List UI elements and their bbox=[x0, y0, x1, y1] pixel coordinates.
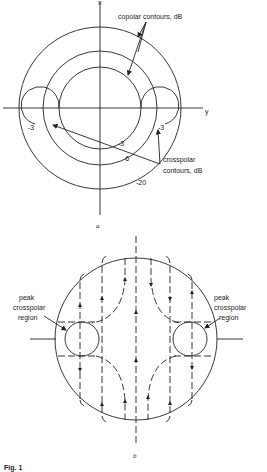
panel-a-label: a bbox=[96, 222, 100, 230]
y-axis-label: y bbox=[205, 108, 209, 116]
left-annotation-arrow bbox=[44, 316, 66, 330]
level-label-left-cross: -3 bbox=[28, 124, 34, 131]
field-line bbox=[151, 258, 180, 323]
x-axis-label: x bbox=[98, 0, 102, 6]
crosspolar-label-line2: contours, dB bbox=[163, 167, 203, 174]
panel-a: x y -3 -3 -3 -6 -20 copolar contours, dB… bbox=[3, 0, 209, 230]
panel-b: peak crosspolar region peak crosspolar r… bbox=[13, 236, 247, 460]
right-annotation-line2: crosspolar bbox=[214, 304, 247, 312]
level-label-6db: -6 bbox=[123, 155, 129, 162]
figure-canvas: x y -3 -3 -3 -6 -20 copolar contours, dB… bbox=[0, 0, 267, 472]
crosspolar-arrow-right bbox=[158, 130, 160, 164]
crosspolar-region-left bbox=[65, 322, 99, 356]
left-annotation-line2: crosspolar bbox=[13, 304, 46, 312]
figure-caption: Fig. 1 bbox=[4, 464, 22, 472]
copolar-label: copolar contours, dB bbox=[118, 13, 183, 21]
crosspolar-region-right bbox=[173, 322, 207, 356]
level-label-3db: -3 bbox=[118, 140, 124, 147]
right-annotation-arrow bbox=[205, 318, 220, 328]
panel-b-label: b bbox=[133, 452, 137, 460]
field-line bbox=[96, 356, 125, 420]
left-annotation-line3: region bbox=[18, 314, 38, 322]
level-label-right-cross: -3 bbox=[158, 124, 164, 131]
copolar-arrow-2 bbox=[128, 22, 146, 75]
crosspolar-label-line1: crosspolar bbox=[163, 156, 196, 164]
left-annotation-line1: peak bbox=[19, 294, 35, 302]
crosspolar-contour-left bbox=[21, 87, 59, 124]
field-line bbox=[148, 356, 176, 420]
level-label-20db: -20 bbox=[136, 179, 146, 186]
right-annotation-line3: region bbox=[219, 314, 239, 322]
crosspolar-contour-right bbox=[141, 87, 179, 124]
right-annotation-line1: peak bbox=[214, 294, 230, 302]
